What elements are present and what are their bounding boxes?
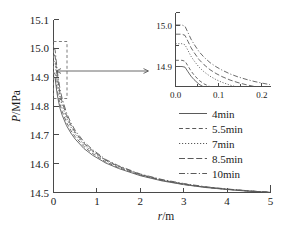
x-tick-label: 0 xyxy=(51,195,57,207)
legend-item-5point5min[interactable]: 5.5min xyxy=(179,123,243,135)
legend-label-8point5min: 8.5min xyxy=(212,153,243,165)
x-axis-tick-labels: 0 1 2 3 4 5 xyxy=(51,195,274,207)
y-axis-ticks xyxy=(54,20,59,193)
inset-curve-10min xyxy=(176,25,271,85)
inset-x-tick-label: 0.0 xyxy=(170,90,182,100)
x-tick-label: 1 xyxy=(94,195,100,207)
inset-x-tick-label: 0.2 xyxy=(256,90,267,100)
y-axis-title-unit: /MPa xyxy=(10,90,22,115)
legend-item-10min[interactable]: 10min xyxy=(179,168,241,180)
inset-curve-8point5min xyxy=(176,34,263,88)
inset-x-tick-label: 0.1 xyxy=(213,90,224,100)
legend-item-4min[interactable]: 4min xyxy=(179,108,235,120)
x-tick-label: 3 xyxy=(181,195,187,207)
legend-label-5point5min: 5.5min xyxy=(212,123,243,135)
y-tick-label: 14.8 xyxy=(30,100,50,112)
callout-annotation xyxy=(54,42,149,99)
y-tick-label: 15.1 xyxy=(30,14,49,26)
x-tick-label: 5 xyxy=(268,195,274,207)
y-axis-title-symbol: P xyxy=(10,115,22,123)
chart-svg: 14.5 14.6 14.7 14.8 14.9 15.0 15.1 0 1 xyxy=(0,0,287,236)
y-axis-title: P/MPa xyxy=(10,90,22,123)
inset-y-tick-label: 15.0 xyxy=(156,21,172,31)
legend-label-10min: 10min xyxy=(212,168,241,180)
y-axis-tick-labels: 14.5 14.6 14.7 14.8 14.9 15.0 15.1 xyxy=(30,14,50,199)
y-tick-label: 14.9 xyxy=(30,71,50,83)
x-tick-label: 4 xyxy=(224,195,230,207)
inset-axes: 15.0 14.9 0.0 0.1 0.2 xyxy=(156,13,270,101)
legend-item-7min[interactable]: 7min xyxy=(179,138,235,150)
y-tick-label: 15.0 xyxy=(30,42,50,54)
legend-item-8point5min[interactable]: 8.5min xyxy=(179,153,243,165)
inset-curve-5point5min xyxy=(176,60,223,90)
inset-y-tick-label: 14.9 xyxy=(156,62,172,72)
legend: 4min 5.5min 7min 8.5min 10min xyxy=(179,108,243,180)
x-tick-label: 2 xyxy=(138,195,144,207)
inset-curves xyxy=(176,25,271,90)
y-tick-label: 14.5 xyxy=(30,187,50,199)
y-tick-label: 14.7 xyxy=(30,129,50,141)
pressure-vs-radius-figure: 14.5 14.6 14.7 14.8 14.9 15.0 15.1 0 1 xyxy=(0,0,287,236)
legend-label-4min: 4min xyxy=(212,108,235,120)
y-tick-label: 14.6 xyxy=(30,158,50,170)
x-axis-title: r/m xyxy=(158,210,175,222)
legend-label-7min: 7min xyxy=(212,138,235,150)
x-axis-title-unit: /m xyxy=(162,210,174,222)
inset-x-ticks xyxy=(176,83,262,87)
